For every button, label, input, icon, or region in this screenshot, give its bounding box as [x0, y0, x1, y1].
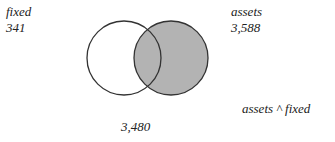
assets-count: 3,588 — [231, 20, 262, 36]
intersection-label: assets ^ fixed — [242, 101, 310, 117]
fixed-set-label: fixed 341 — [6, 4, 31, 36]
intersection-count: 3,480 — [121, 119, 150, 135]
assets-set-label: assets 3,588 — [231, 4, 262, 36]
assets-circle — [134, 21, 208, 95]
assets-name: assets — [231, 4, 262, 20]
fixed-count: 341 — [6, 20, 31, 36]
venn-diagram — [0, 0, 335, 142]
fixed-name: fixed — [6, 4, 31, 20]
